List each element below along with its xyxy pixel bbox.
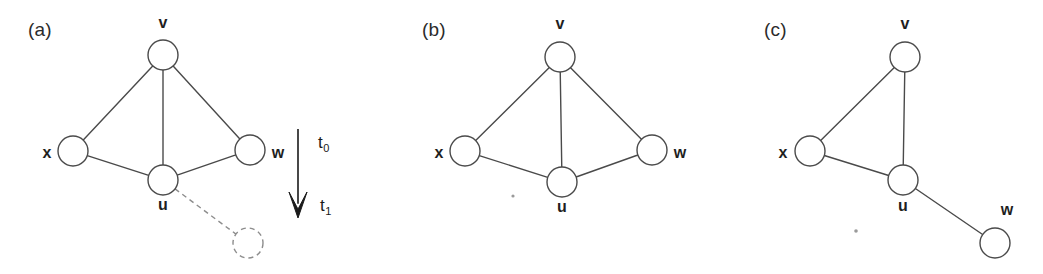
- graph-node-label-u: u: [898, 197, 908, 214]
- panel-b-caption: (b): [422, 19, 446, 40]
- graph-node-v[interactable]: [890, 42, 920, 72]
- graph-node-label-w: w: [271, 144, 285, 161]
- graph-node-label-w: w: [1000, 201, 1014, 218]
- panel-c-caption: (c): [764, 19, 787, 40]
- panel-a: vxwu(a): [28, 14, 285, 258]
- panel-c: vxuw(c): [764, 15, 1014, 258]
- graph-edge-x-u: [87, 156, 148, 176]
- graph-node-x[interactable]: [795, 136, 825, 166]
- graph-node-u[interactable]: [547, 167, 577, 197]
- figure-container: vxwu(a)vxwu(b)vxuw(c) t0t1: [0, 0, 1043, 274]
- graph-node-v[interactable]: [148, 40, 178, 70]
- graph-edge-u-ghost: [175, 189, 236, 234]
- graph-node-label-u: u: [158, 196, 168, 213]
- graph-evolution-figure: vxwu(a)vxwu(b)vxuw(c) t0t1: [0, 0, 1043, 274]
- graph-node-u[interactable]: [888, 165, 918, 195]
- panels-layer: vxwu(a)vxwu(b)vxuw(c): [28, 14, 1014, 258]
- scan-speck: [511, 194, 514, 197]
- scan-speck: [854, 229, 858, 233]
- graph-node-w[interactable]: [637, 135, 667, 165]
- graph-node-u[interactable]: [148, 165, 178, 195]
- time-label-subscript-t0: 0: [323, 142, 329, 154]
- graph-node-label-v: v: [159, 14, 168, 31]
- graph-node-label-u: u: [557, 198, 567, 215]
- panel-b-edges: [476, 68, 642, 178]
- graph-node-w[interactable]: [235, 135, 265, 165]
- graph-edge-v-w: [571, 68, 642, 140]
- graph-node-v[interactable]: [545, 42, 575, 72]
- graph-node-label-x: x: [779, 144, 788, 161]
- graph-node-label-v: v: [901, 15, 910, 32]
- graph-edge-x-u: [479, 156, 547, 178]
- graph-node-label-w: w: [673, 144, 687, 161]
- graph-edge-u-w: [915, 188, 982, 234]
- graph-node-w[interactable]: [980, 228, 1010, 258]
- graph-node-label-v: v: [556, 15, 565, 32]
- graph-edge-v-x: [476, 68, 550, 141]
- time-arrow-group: t0t1: [289, 129, 331, 218]
- time-label-t1: t1: [320, 196, 331, 217]
- graph-edge-v-u: [560, 72, 562, 167]
- graph-edge-v-x: [83, 66, 152, 140]
- graph-node-label-x: x: [435, 144, 444, 161]
- graph-edge-u-w: [576, 155, 638, 177]
- graph-edge-u-w: [177, 155, 236, 175]
- time-label-subscript-t1: 1: [325, 205, 331, 217]
- graph-edge-v-w: [173, 66, 240, 139]
- graph-node-x[interactable]: [58, 136, 88, 166]
- graph-node-x[interactable]: [450, 136, 480, 166]
- graph-node-ghost[interactable]: [233, 228, 263, 258]
- time-label-t0: t0: [318, 133, 329, 154]
- graph-node-label-x: x: [43, 144, 52, 161]
- graph-edge-x-u: [824, 155, 888, 175]
- panel-a-caption: (a): [28, 19, 52, 40]
- panel-b: vxwu(b): [422, 15, 687, 215]
- graph-edge-v-x: [821, 68, 895, 141]
- graph-edge-v-u: [903, 72, 905, 165]
